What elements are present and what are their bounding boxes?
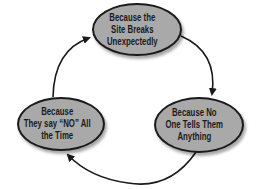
node-label: Because No One Tells Them Anything <box>158 107 232 143</box>
node-no-one-tells: Because No One Tells Them Anything <box>154 97 244 153</box>
arrow-left-to-top <box>53 38 89 97</box>
arrow-right-to-left <box>68 152 196 184</box>
node-site-breaks: Because the Site Breaks Unexpectedly <box>92 3 182 56</box>
arrow-top-to-right <box>181 36 213 94</box>
node-label: Because the Site Breaks Unexpectedly <box>96 12 170 48</box>
node-label: Because They say “NO” All the Time <box>21 106 93 142</box>
cycle-diagram: Because the Site Breaks Unexpectedly Bec… <box>0 0 260 189</box>
node-say-no: Because They say “NO” All the Time <box>17 97 105 151</box>
